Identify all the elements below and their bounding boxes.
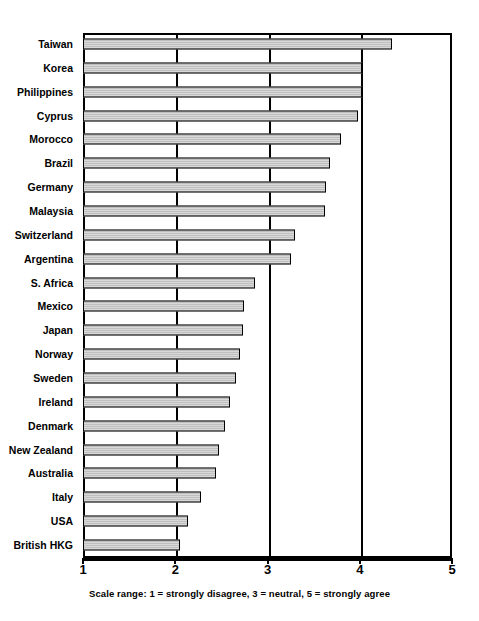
category-axis-labels: TaiwanKoreaPhilippinesCyprusMoroccoBrazi… — [0, 0, 78, 621]
bar — [83, 516, 188, 527]
bar — [83, 396, 230, 407]
x-axis-tick-label: 2 — [172, 562, 179, 577]
category-label: Switzerland — [15, 229, 73, 240]
bar — [83, 540, 180, 551]
category-label: S. Africa — [31, 277, 73, 288]
category-label: USA — [51, 516, 73, 527]
category-label: Malaysia — [29, 205, 73, 216]
bar — [83, 468, 216, 479]
bar — [83, 444, 219, 455]
x-axis-tick-label: 1 — [79, 562, 86, 577]
chart-caption: Scale range: 1 = strongly disagree, 3 = … — [0, 588, 479, 599]
category-label: British HKG — [13, 540, 73, 551]
bar — [83, 38, 392, 49]
bar — [83, 86, 362, 97]
x-axis-tick-label: 4 — [356, 562, 363, 577]
bar — [83, 492, 201, 503]
bar — [83, 110, 358, 121]
category-label: Mexico — [37, 301, 73, 312]
bar — [83, 420, 225, 431]
category-label: Argentina — [24, 253, 73, 264]
bars-layer — [83, 33, 452, 558]
category-label: Germany — [27, 182, 73, 193]
x-axis-tick-labels: 12345 — [0, 562, 479, 582]
category-label: Japan — [43, 325, 73, 336]
category-label: Denmark — [28, 420, 73, 431]
x-axis-tick-label: 3 — [264, 562, 271, 577]
bar — [83, 301, 244, 312]
bar — [83, 325, 243, 336]
bar-chart: TaiwanKoreaPhilippinesCyprusMoroccoBrazi… — [0, 0, 479, 621]
bar — [83, 62, 362, 73]
x-axis-tick-label: 5 — [448, 562, 455, 577]
category-label: Philippines — [17, 86, 73, 97]
category-label: Sweden — [33, 373, 73, 384]
bar — [83, 253, 291, 264]
category-label: Norway — [35, 349, 73, 360]
category-label: Korea — [43, 62, 73, 73]
category-label: Ireland — [39, 396, 73, 407]
bar — [83, 349, 240, 360]
bar — [83, 373, 236, 384]
bar — [83, 158, 330, 169]
bar — [83, 182, 326, 193]
bar — [83, 205, 325, 216]
bar — [83, 134, 341, 145]
category-label: Brazil — [44, 158, 73, 169]
x-axis-line — [83, 558, 452, 561]
category-label: Taiwan — [38, 38, 73, 49]
category-label: Italy — [52, 492, 73, 503]
category-label: Morocco — [29, 134, 73, 145]
category-label: Australia — [28, 468, 73, 479]
category-label: New Zealand — [9, 444, 73, 455]
category-label: Cyprus — [37, 110, 73, 121]
bar — [83, 277, 255, 288]
bar — [83, 229, 295, 240]
